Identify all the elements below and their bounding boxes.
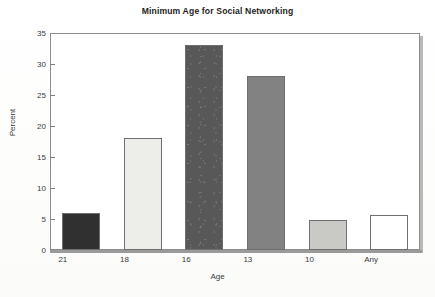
x-tick-label-16: 16 bbox=[168, 255, 204, 264]
x-tick-label-13: 13 bbox=[230, 255, 266, 264]
bar-chart-figure: Minimum Age for Social Networking 051015… bbox=[0, 0, 435, 297]
bar-21 bbox=[62, 213, 100, 250]
y-tick-mark-5 bbox=[50, 219, 55, 220]
y-tick-mark-15 bbox=[50, 157, 55, 158]
y-tick-mark-20 bbox=[50, 126, 55, 127]
bar-Any bbox=[370, 215, 408, 250]
y-axis-title: Percent bbox=[8, 83, 17, 163]
x-axis-title: Age bbox=[0, 272, 435, 281]
chart-title: Minimum Age for Social Networking bbox=[0, 6, 435, 16]
y-tick-label-25: 25 bbox=[24, 91, 46, 100]
bars-container bbox=[50, 33, 420, 250]
y-tick-mark-30 bbox=[50, 64, 55, 65]
y-tick-label-35: 35 bbox=[24, 29, 46, 38]
bar-texture bbox=[186, 46, 222, 249]
bar-18 bbox=[124, 138, 162, 250]
x-tick-label-10: 10 bbox=[292, 255, 328, 264]
y-tick-label-20: 20 bbox=[24, 122, 46, 131]
bar-10 bbox=[309, 220, 347, 250]
y-tick-label-10: 10 bbox=[24, 184, 46, 193]
y-tick-label-0: 0 bbox=[24, 246, 46, 255]
x-tick-label-18: 18 bbox=[107, 255, 143, 264]
y-tick-label-30: 30 bbox=[24, 60, 46, 69]
y-tick-label-15: 15 bbox=[24, 153, 46, 162]
x-axis-ticks: 2118161310Any bbox=[50, 252, 420, 268]
y-tick-mark-10 bbox=[50, 188, 55, 189]
bar-13 bbox=[247, 76, 285, 250]
x-tick-label-21: 21 bbox=[45, 255, 81, 264]
x-axis-baseline bbox=[50, 250, 422, 253]
y-axis-ticks: 05101520253035 bbox=[20, 33, 46, 250]
y-tick-label-5: 5 bbox=[24, 215, 46, 224]
bar-16 bbox=[185, 45, 223, 250]
y-tick-mark-25 bbox=[50, 95, 55, 96]
x-tick-label-Any: Any bbox=[353, 255, 389, 264]
